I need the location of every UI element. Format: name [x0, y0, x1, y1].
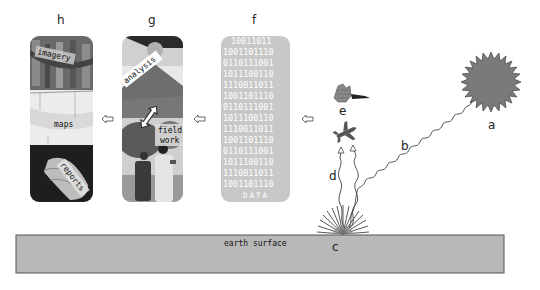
- earth-surface-label: earth surface: [224, 239, 287, 248]
- data-title: DATA: [243, 191, 269, 200]
- satellite-icon: [334, 84, 370, 102]
- label-d: d: [329, 169, 337, 183]
- binary-row: 1011100110: [223, 113, 273, 123]
- earth-surface: earth surface c: [16, 235, 504, 273]
- analysis-fieldwork-panel: g analysis: [118, 13, 184, 202]
- binary-row: 1110011011: [223, 124, 273, 134]
- binary-row: 1110011011: [223, 168, 273, 178]
- binary-row: 0110111001: [223, 102, 273, 112]
- label-e: e: [339, 104, 346, 118]
- reflected-radiation-waves: d: [329, 145, 358, 228]
- airplane-icon: [331, 119, 360, 147]
- binary-row: 10011011: [231, 36, 271, 46]
- binary-row: 1001101110: [223, 179, 273, 189]
- label-h: h: [57, 13, 65, 27]
- binary-row: 1011100110: [223, 157, 273, 167]
- label-b: b: [401, 139, 409, 153]
- fieldwork-tag-line1: field: [158, 126, 182, 135]
- reflection-fan: [317, 205, 369, 234]
- binary-row: 1001101110: [223, 135, 273, 145]
- binary-row: 1011100110: [223, 69, 273, 79]
- arrow-e-to-f: [302, 115, 313, 123]
- remote-sensing-diagram: earth surface c a b d: [0, 0, 540, 290]
- binary-row: 1001101110: [223, 47, 273, 57]
- label-a: a: [488, 118, 495, 132]
- label-c: c: [332, 240, 339, 254]
- fieldwork-tag-line2: work: [160, 136, 179, 145]
- maps-tag: maps: [54, 120, 73, 129]
- binary-row: 1110011011: [223, 80, 273, 90]
- products-panel: h imagery maps: [30, 13, 93, 202]
- binary-row: 1001101110: [223, 91, 273, 101]
- binary-row: 0110111001: [223, 146, 273, 156]
- arrow-g-to-h: [102, 115, 113, 123]
- arrow-f-to-g: [194, 115, 205, 123]
- incoming-radiation-wave: b: [349, 101, 472, 228]
- label-g: g: [148, 13, 156, 27]
- binary-row: 0110111001: [223, 58, 273, 68]
- data-panel: f 10011011 1001101110 0110111001 1011100…: [221, 13, 290, 202]
- label-f: f: [252, 13, 257, 27]
- sun-icon: a: [461, 52, 521, 132]
